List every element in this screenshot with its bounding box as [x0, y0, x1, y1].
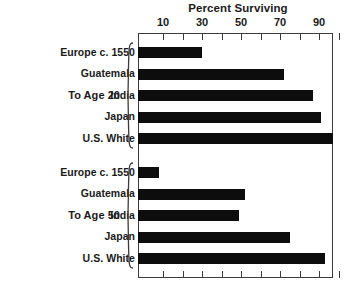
x-axis-label-70: 70: [265, 16, 295, 28]
bar: [138, 253, 325, 264]
group-label: To Age 50: [8, 209, 120, 221]
x-axis-label-30: 30: [187, 16, 217, 28]
x-axis-tick-70: [280, 271, 281, 278]
bar: [138, 232, 290, 243]
bar: [138, 189, 245, 200]
category-label: Japan: [10, 110, 135, 123]
chart-root: Percent Surviving 1030507090 Europe c. 1…: [0, 0, 348, 290]
x-axis-tick-10: [163, 271, 164, 278]
category-label-text: U.S. White: [15, 132, 135, 144]
category-label: Guatemala: [10, 67, 135, 80]
category-label: U.S. White: [10, 132, 135, 145]
x-axis-label-10: 10: [148, 16, 178, 28]
x-axis-tick-50: [241, 33, 242, 40]
bar: [138, 69, 284, 80]
x-axis-tick-100: [339, 33, 340, 40]
category-label: U.S. White: [10, 252, 135, 265]
x-axis-tick-100: [339, 271, 340, 278]
category-label-text: Europe c. 1550: [15, 46, 135, 58]
chart-title: Percent Surviving: [143, 2, 333, 14]
bar: [138, 112, 321, 123]
category-label-text: Europe c. 1550: [15, 166, 135, 178]
category-label: Europe c. 1550: [10, 166, 135, 179]
x-axis-tick-90: [319, 271, 320, 278]
category-label-text: Guatemala: [15, 187, 135, 199]
category-label: Guatemala: [10, 187, 135, 200]
x-axis-tick-40: [222, 33, 223, 40]
category-label-text: Japan: [15, 110, 135, 122]
x-axis-tick-50: [241, 271, 242, 278]
x-axis-tick-90: [319, 33, 320, 40]
category-label-text: Japan: [15, 230, 135, 242]
group-brace: [122, 42, 134, 149]
x-axis-tick-10: [163, 33, 164, 40]
group-brace: [122, 162, 134, 269]
x-axis-tick-80: [300, 33, 301, 40]
x-axis-tick-20: [183, 33, 184, 40]
category-label-text: U.S. White: [15, 252, 135, 264]
x-axis-tick-80: [300, 271, 301, 278]
category-label-text: Guatemala: [15, 67, 135, 79]
bar: [138, 90, 313, 101]
category-label: Japan: [10, 230, 135, 243]
bar: [138, 47, 202, 58]
x-axis-label-90: 90: [304, 16, 334, 28]
bar: [138, 133, 333, 144]
x-axis-tick-60: [261, 271, 262, 278]
x-axis-tick-20: [183, 271, 184, 278]
group-label: To Age 20: [8, 89, 120, 101]
category-label: Europe c. 1550: [10, 46, 135, 59]
x-axis-tick-40: [222, 271, 223, 278]
x-axis-label-50: 50: [226, 16, 256, 28]
x-axis-tick-60: [261, 33, 262, 40]
x-axis-tick-70: [280, 33, 281, 40]
bar: [138, 210, 239, 221]
x-axis-tick-30: [202, 33, 203, 40]
bar: [138, 167, 159, 178]
x-axis-tick-30: [202, 271, 203, 278]
